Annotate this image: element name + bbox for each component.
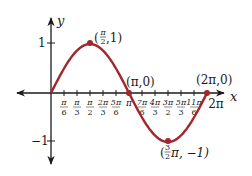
x-tick-label: π — [73, 98, 80, 107]
annotation-pi: (π,0) — [126, 75, 155, 89]
svg-text:2: 2 — [165, 108, 170, 117]
point-peak — [87, 40, 93, 46]
svg-text:,1): ,1) — [106, 31, 122, 45]
sine-chart: x y 1 −1 π6π3π22π35π6π7π64π33π25π311π62π… — [0, 0, 252, 176]
svg-text:3: 3 — [165, 143, 170, 152]
x-tick-label: 7π — [137, 98, 148, 107]
annotation-trough: ( 3 2 π, −1) — [160, 143, 209, 161]
x-tick-label: 5π — [111, 98, 122, 107]
svg-text:(: ( — [160, 146, 165, 160]
annotation-peak: ( π 2 ,1) — [94, 28, 122, 46]
svg-text:(: ( — [94, 31, 99, 45]
y-axis-label: y — [56, 13, 65, 28]
x-tick-label: 3π — [163, 98, 174, 107]
svg-text:2: 2 — [87, 108, 92, 117]
svg-text:2: 2 — [165, 152, 170, 161]
svg-text:3: 3 — [152, 108, 157, 117]
point-pi — [126, 90, 132, 96]
y-tick-label-1: 1 — [38, 36, 46, 50]
y-tick-label-neg1: −1 — [31, 134, 49, 148]
x-ticks: π6π3π22π35π6π7π64π33π25π311π62π — [60, 90, 224, 117]
svg-text:π, −1): π, −1) — [170, 146, 209, 160]
annotation-2pi: (2π,0) — [196, 73, 232, 87]
x-axis-label: x — [230, 89, 238, 104]
x-tick-label: 5π — [176, 98, 187, 107]
svg-text:6: 6 — [113, 108, 118, 117]
point-2pi — [204, 90, 210, 96]
x-tick-label: 2π — [208, 97, 224, 111]
svg-text:3: 3 — [178, 108, 183, 117]
x-tick-label: π — [86, 98, 93, 107]
x-tick-label: π — [60, 98, 67, 107]
svg-text:2: 2 — [101, 37, 106, 46]
x-tick-label: 2π — [97, 98, 109, 107]
svg-text:3: 3 — [100, 108, 105, 117]
svg-text:3: 3 — [74, 108, 79, 117]
x-tick-label: 4π — [149, 98, 161, 107]
svg-text:6: 6 — [61, 108, 66, 117]
